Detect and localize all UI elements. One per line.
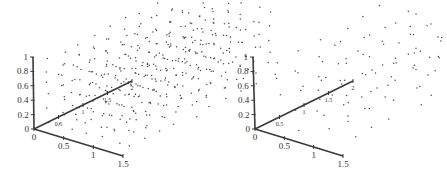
scatter-plots-3d: 00.20.40.60.8100.511.50.511.5200.20.40.6… xyxy=(0,0,447,179)
data-points xyxy=(270,5,443,138)
z-tick-label: 0 xyxy=(25,124,30,134)
x-tick-label: 0.5 xyxy=(58,141,70,151)
x-axis xyxy=(34,129,123,156)
x-tick-label: 1.5 xyxy=(337,159,349,169)
x-tick-label: 0.5 xyxy=(279,141,291,151)
z-tick-label: 0 xyxy=(246,124,251,134)
axes: 00.20.40.60.8100.511.50.511.52 xyxy=(17,52,134,169)
x-tick-label: 1 xyxy=(91,150,96,160)
y-tick-label: 0.5 xyxy=(276,121,284,127)
y-tick-label: 1.5 xyxy=(325,97,333,103)
x-axis xyxy=(255,129,343,156)
y-tick-label: 1 xyxy=(82,109,85,115)
y-tick-label: 0.5 xyxy=(55,121,63,127)
x-tick-label: 0 xyxy=(32,132,37,142)
z-tick-label: 0.8 xyxy=(237,66,249,76)
z-tick-label: 0.2 xyxy=(18,110,29,120)
z-tick-label: 1 xyxy=(24,52,29,62)
y-tick-label: 1 xyxy=(303,109,306,115)
y-tick-label: 2 xyxy=(131,85,134,91)
x-tick-label: 1 xyxy=(311,150,316,160)
z-tick-label: 0.6 xyxy=(17,81,29,91)
y-tick-label: 1.5 xyxy=(104,97,112,103)
z-tick-label: 0.2 xyxy=(238,110,249,120)
x-tick-label: 0 xyxy=(253,132,258,142)
z-tick-label: 0.4 xyxy=(238,95,250,105)
z-axis xyxy=(33,57,34,129)
y-tick-label: 2 xyxy=(352,85,355,91)
plot-sparse: 00.20.40.60.8100.511.50.511.52 xyxy=(237,5,442,169)
figure: 00.20.40.60.8100.511.50.511.5200.20.40.6… xyxy=(0,0,447,179)
z-tick-label: 0.8 xyxy=(17,66,29,76)
z-tick-label: 0.6 xyxy=(238,81,250,91)
z-tick-label: 1 xyxy=(244,52,249,62)
x-tick-label: 1.5 xyxy=(117,159,129,169)
z-axis xyxy=(253,57,255,129)
z-tick-label: 0.4 xyxy=(17,95,29,105)
